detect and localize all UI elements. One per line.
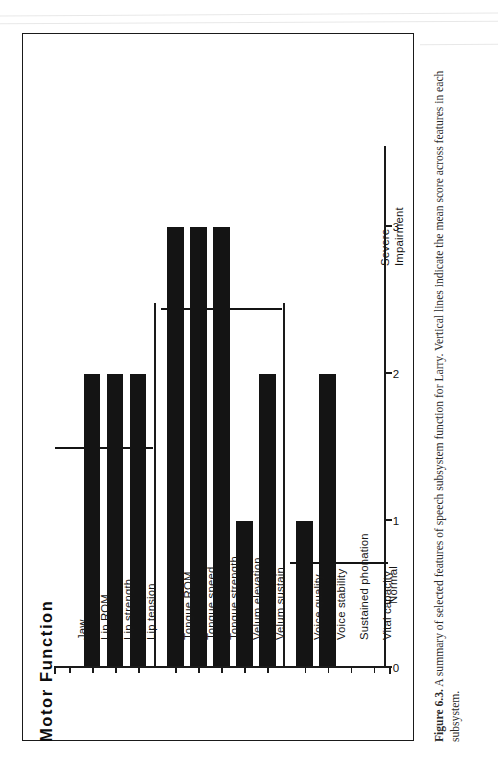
figure-caption-label: Figure 6.3. bbox=[433, 689, 446, 742]
category-label: Lip tension bbox=[145, 583, 157, 640]
value-axis-tick-label-text: 0 bbox=[393, 662, 399, 674]
figure-frame: 0123 JawLip ROMLip strengthLip tensionTo… bbox=[22, 33, 414, 741]
value-axis-tick-label-text: 2 bbox=[393, 368, 399, 380]
category-axis-tick bbox=[69, 667, 70, 673]
group-mean-line bbox=[161, 308, 282, 310]
value-axis-tick-label: 2 bbox=[390, 359, 402, 389]
group-mean-line bbox=[290, 562, 388, 564]
category-label: Sustained phonation bbox=[358, 533, 370, 640]
category-axis-tick bbox=[115, 667, 116, 673]
category-label: Voice stability bbox=[335, 569, 347, 640]
scale-high-label: SevereImpairment bbox=[379, 207, 406, 266]
category-axis-tick bbox=[374, 667, 375, 673]
scale-high-label-line2: Impairment bbox=[393, 207, 407, 266]
category-axis-tick bbox=[221, 667, 222, 673]
scan-artifact-line bbox=[0, 12, 498, 16]
category-axis-tick bbox=[328, 667, 329, 673]
category-label: Tongue ROM bbox=[182, 571, 194, 640]
category-label: Voice quality bbox=[312, 574, 324, 640]
category-axis-tick bbox=[92, 667, 93, 673]
category-axis-tick bbox=[244, 667, 245, 673]
category-label: Lip ROM bbox=[99, 594, 111, 640]
scale-high-label-line1: Severe bbox=[379, 207, 393, 266]
scan-artifact-line bbox=[0, 21, 498, 25]
category-axis-tick bbox=[198, 667, 199, 673]
category-axis-tick bbox=[351, 667, 352, 673]
category-label: Tongue speed bbox=[205, 567, 217, 640]
category-label: Velum sustain bbox=[274, 567, 286, 640]
value-axis-tick-label-text: 1 bbox=[393, 515, 399, 527]
figure-caption: Figure 6.3. A summary of selected featur… bbox=[432, 42, 463, 742]
category-axis-tick bbox=[175, 667, 176, 673]
category-axis-tick bbox=[138, 667, 139, 673]
category-label: Jaw bbox=[76, 619, 88, 640]
bar bbox=[296, 521, 313, 666]
category-label: Lip strength bbox=[122, 579, 134, 640]
category-axis-tick bbox=[267, 667, 268, 673]
category-axis-tick bbox=[305, 667, 306, 673]
category-label: Tongue strength bbox=[228, 556, 240, 640]
value-axis-tick-label: 0 bbox=[390, 653, 402, 683]
figure-caption-text: A summary of selected features of speech… bbox=[433, 71, 462, 742]
category-axis-title: Motor Function bbox=[37, 600, 56, 742]
value-axis-tick-label: 1 bbox=[390, 506, 402, 536]
category-label: Velum elevation bbox=[251, 557, 263, 640]
scale-low-label: Normal bbox=[387, 566, 399, 604]
